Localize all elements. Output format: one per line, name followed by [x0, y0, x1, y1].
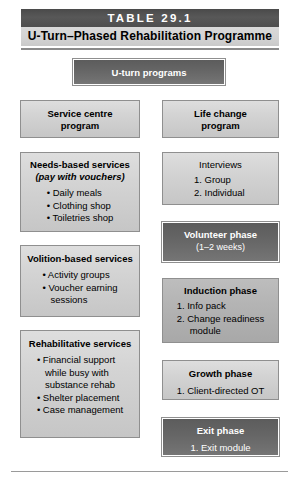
- node-volition-based-services[interactable]: Volition-based services • Activity group…: [20, 245, 140, 317]
- node-title: Needs-based services: [24, 159, 136, 171]
- node-service-centre-program[interactable]: Service centre program: [20, 100, 140, 138]
- header-divider: [21, 48, 279, 50]
- list-item: Group: [194, 174, 247, 187]
- node-numbered-list: Client-directed OT: [177, 385, 265, 398]
- list-item: • Toiletries shop: [47, 212, 114, 225]
- node-title: Volition-based services: [24, 253, 136, 265]
- node-title: Growth phase: [166, 368, 275, 380]
- table-number-label: TABLE 29.1: [21, 9, 279, 27]
- node-title: Rehabilitative services: [24, 338, 136, 350]
- node-title: Service centre: [24, 108, 136, 120]
- node-subtitle: program: [24, 120, 136, 132]
- list-item: Client-directed OT: [177, 385, 265, 398]
- list-item: Exit module: [190, 442, 250, 455]
- list-item: • Case management: [37, 404, 123, 417]
- node-bullet-list: • Financial support while busy with subs…: [37, 354, 123, 417]
- node-bullet-list: • Activity groups • Voucher earning sess…: [42, 269, 117, 307]
- node-numbered-list: Group Individual: [194, 174, 247, 199]
- node-title: Volunteer phase: [166, 229, 275, 241]
- node-title: Induction phase: [166, 285, 275, 297]
- node-induction-phase[interactable]: Induction phase Info pack Change readine…: [162, 278, 279, 343]
- node-life-change-program[interactable]: Life change program: [162, 100, 279, 138]
- node-volunteer-phase[interactable]: Volunteer phase (1–2 weeks): [162, 222, 279, 262]
- list-item: • Activity groups: [42, 269, 117, 282]
- node-title: Exit phase: [166, 425, 275, 437]
- table-header: TABLE 29.1 U-Turn–Phased Rehabilitation …: [21, 9, 279, 50]
- node-subtitle: program: [166, 120, 275, 132]
- footer-divider: [11, 471, 288, 472]
- node-growth-phase[interactable]: Growth phase Client-directed OT: [162, 360, 279, 400]
- node-note: (1–2 weeks): [166, 241, 275, 253]
- node-u-turn-programs[interactable]: U-turn programs: [73, 59, 225, 85]
- node-exit-phase[interactable]: Exit phase Exit module: [162, 418, 279, 456]
- list-item: • Clothing shop: [47, 200, 114, 213]
- node-numbered-list: Exit module: [190, 442, 250, 455]
- node-needs-based-services[interactable]: Needs-based services (pay with vouchers)…: [20, 152, 140, 232]
- list-item: Change readiness module: [177, 313, 265, 338]
- list-item: Individual: [194, 187, 247, 200]
- node-title: U-turn programs: [77, 67, 221, 79]
- node-numbered-list: Info pack Change readiness module: [177, 300, 265, 338]
- node-title: Interviews: [166, 159, 275, 171]
- node-subtitle: (pay with vouchers): [24, 171, 136, 183]
- list-item: • Daily meals: [47, 187, 114, 200]
- node-bullet-list: • Daily meals • Clothing shop • Toiletri…: [47, 187, 114, 225]
- node-interviews[interactable]: Interviews Group Individual: [162, 152, 279, 205]
- list-item: • Shelter placement: [37, 392, 123, 405]
- list-item: • Financial support while busy with subs…: [37, 354, 123, 392]
- node-title: Life change: [166, 108, 275, 120]
- node-rehabilitative-services[interactable]: Rehabilitative services • Financial supp…: [20, 330, 140, 438]
- list-item: • Voucher earning sessions: [42, 282, 117, 307]
- table-title: U-Turn–Phased Rehabilitation Programme: [21, 27, 279, 46]
- list-item: Info pack: [177, 300, 265, 313]
